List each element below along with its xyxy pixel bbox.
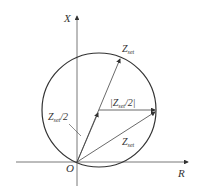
y-axis-label: X (63, 12, 72, 24)
zset-half-label: Zset/2 (48, 111, 68, 123)
x-axis-label: R (177, 167, 185, 179)
zset-half-vector (77, 113, 98, 162)
zset-bottom-label: Zset (122, 136, 135, 148)
impedance-circle-diagram: X R O Zset Zset/2 |Zset/2| Zset (0, 0, 201, 196)
origin-label: O (66, 162, 74, 174)
zset-half-leader (69, 124, 81, 136)
zset-top-label: Zset (122, 43, 135, 55)
zset-vector-bottom (77, 112, 155, 162)
radius-label: |Zset/2| (110, 97, 136, 109)
